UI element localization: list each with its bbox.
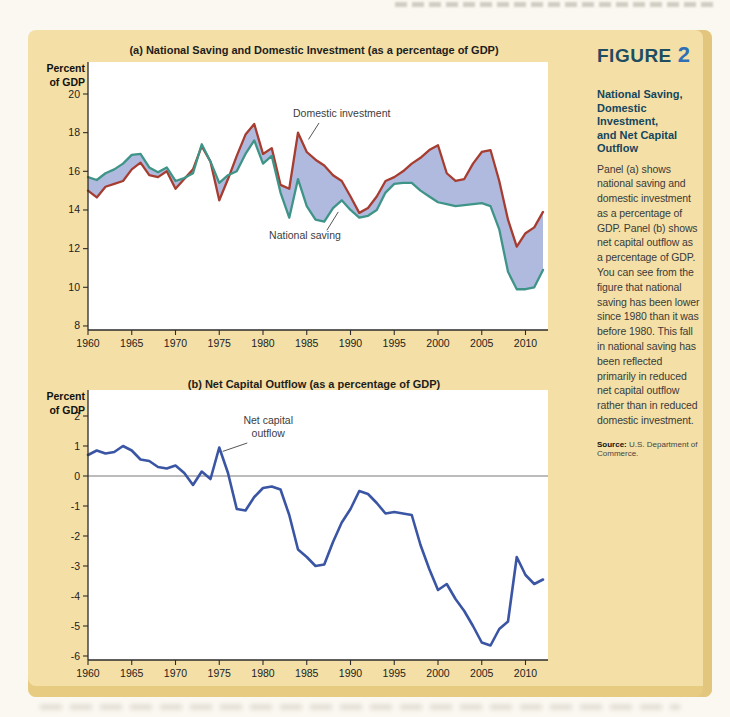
figure-caption-source: Source: U.S. Department of Commerce. — [597, 440, 701, 458]
x-tick-label: 1960 — [76, 667, 100, 679]
annotation-label: outflow — [252, 427, 286, 439]
x-tick-label: 2000 — [426, 337, 450, 349]
y-tick-label: -5 — [71, 620, 80, 632]
x-tick-label: 2005 — [470, 337, 494, 349]
figure-caption-body: Panel (a) shows national saving and dome… — [597, 162, 701, 428]
y-tick-label: -3 — [71, 560, 80, 572]
x-tick-label: 2010 — [514, 337, 538, 349]
y-tick-label: 1 — [74, 440, 80, 452]
x-tick-label: 1990 — [339, 337, 363, 349]
y-tick-label: 8 — [74, 319, 80, 331]
x-tick-label: 1975 — [208, 337, 232, 349]
x-tick-label: 1965 — [120, 667, 144, 679]
x-tick-label: 1975 — [208, 667, 232, 679]
annotation-label: National saving — [269, 229, 341, 241]
y-tick-label: 0 — [74, 470, 80, 482]
panel-b-plot: 210-1-2-3-4-5-61960196519701975198019851… — [40, 374, 588, 686]
y-axis-caption: of GDP — [49, 404, 85, 416]
figure-panel: (a) National Saving and Domestic Investm… — [28, 30, 712, 697]
y-axis-caption: of GDP — [49, 76, 85, 88]
figure-sidebar: FIGURE 2 National Saving, Domestic Inves… — [597, 42, 701, 458]
x-tick-label: 2000 — [426, 667, 450, 679]
source-label: Source: — [597, 440, 627, 449]
figure-heading: FIGURE 2 — [597, 42, 701, 68]
y-tick-label: 18 — [68, 126, 80, 138]
panel-a-plot: 2018161412108196019651970197519801985199… — [40, 40, 588, 352]
y-tick-label: -2 — [71, 530, 80, 542]
y-tick-label: 10 — [68, 281, 80, 293]
x-tick-label: 1995 — [383, 337, 407, 349]
figure-number: 2 — [678, 42, 690, 68]
x-tick-label: 1965 — [120, 337, 144, 349]
y-tick-label: -1 — [71, 500, 80, 512]
x-tick-label: 1960 — [76, 337, 100, 349]
y-tick-label: 12 — [68, 242, 80, 254]
figure-caption-title: National Saving, Domestic Investment, an… — [597, 88, 701, 156]
y-tick-label: 14 — [68, 203, 80, 215]
x-tick-label: 1985 — [295, 337, 319, 349]
x-tick-label: 1995 — [383, 667, 407, 679]
x-tick-label: 1980 — [251, 337, 275, 349]
y-tick-label: -4 — [71, 590, 80, 602]
x-tick-label: 1990 — [339, 667, 363, 679]
x-tick-label: 2005 — [470, 667, 494, 679]
x-tick-label: 1970 — [164, 667, 188, 679]
page-bleed-through — [40, 704, 680, 710]
x-tick-label: 1970 — [164, 337, 188, 349]
plot-background — [88, 390, 548, 660]
annotation-label: Net capital — [243, 414, 293, 426]
figure-word: FIGURE — [597, 45, 672, 67]
x-tick-label: 1985 — [295, 667, 319, 679]
y-tick-label: 16 — [68, 165, 80, 177]
annotation-label: Domestic investment — [293, 107, 391, 119]
running-head-fragment — [395, 2, 715, 7]
y-axis-caption: Percent — [46, 62, 85, 74]
y-axis-caption: Percent — [46, 390, 85, 402]
y-tick-label: -6 — [71, 650, 80, 662]
y-tick-label: 20 — [68, 88, 80, 100]
x-tick-label: 1980 — [251, 667, 275, 679]
x-tick-label: 2010 — [514, 667, 538, 679]
